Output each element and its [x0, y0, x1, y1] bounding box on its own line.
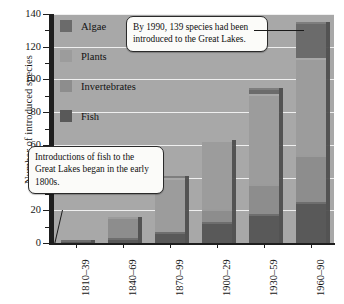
callout-fish-1800s: Introductions of fish to the Great Lakes…	[28, 146, 164, 194]
x-axis-tick	[123, 243, 124, 248]
x-axis-tick	[76, 243, 77, 248]
bar-segment-invertebrates	[202, 209, 232, 222]
bar	[202, 140, 232, 243]
gridline	[53, 14, 334, 15]
segment-highlight	[108, 217, 138, 219]
y-axis: 020406080100120140	[49, 14, 54, 244]
x-axis-label: 1840–69	[127, 259, 138, 296]
y-axis-tick	[45, 194, 49, 195]
x-axis-tick	[217, 243, 218, 248]
x-axis-tick	[311, 243, 312, 248]
y-axis-tick	[45, 227, 49, 228]
bar-segment-fish	[249, 214, 279, 243]
bar-segment-algae	[249, 88, 279, 95]
x-axis-tick	[170, 243, 171, 248]
x-axis	[49, 243, 335, 245]
legend: AlgaePlantsInvertebratesFish	[60, 20, 136, 140]
y-axis-label: 20	[31, 205, 42, 216]
y-axis-tick	[43, 210, 49, 211]
legend-label: Fish	[81, 111, 99, 122]
bar-side-shadow	[326, 22, 330, 243]
callout-species-1990-text: By 1990, 139 species had been introduced…	[133, 22, 248, 44]
x-axis-label: 1960–90	[315, 259, 326, 296]
bar-segment-invertebrates	[108, 217, 138, 238]
callout-leader-line	[254, 30, 304, 31]
legend-item-plants: Plants	[60, 50, 136, 62]
segment-highlight	[296, 155, 326, 157]
segment-highlight	[202, 140, 232, 142]
bar-segment-plants	[296, 58, 326, 155]
y-axis-tick	[45, 129, 49, 130]
legend-item-invertebrates: Invertebrates	[60, 80, 136, 92]
segment-highlight	[296, 22, 326, 24]
chart-figure: Number of introduced species 02040608010…	[0, 0, 344, 304]
segment-highlight	[61, 240, 91, 242]
bar-segment-plants	[202, 140, 232, 209]
y-axis-tick	[45, 30, 49, 31]
bar-segment-fish	[296, 202, 326, 243]
y-axis-label: 140	[25, 9, 41, 20]
bar	[108, 217, 138, 243]
segment-highlight	[202, 222, 232, 224]
y-axis-tick	[45, 96, 49, 97]
y-axis-tick	[45, 63, 49, 64]
legend-swatch	[60, 110, 72, 122]
y-axis-label: 0	[36, 238, 41, 249]
bar-segment-plants	[249, 94, 279, 184]
segment-highlight	[202, 209, 232, 211]
bar-segment-algae	[296, 22, 326, 58]
segment-highlight	[249, 184, 279, 186]
x-axis-label: 1900–29	[221, 259, 232, 296]
segment-highlight	[155, 232, 185, 234]
bar	[296, 22, 326, 243]
segment-highlight	[296, 202, 326, 204]
x-axis-label: 1810–39	[80, 259, 91, 296]
legend-label: Invertebrates	[81, 81, 136, 92]
x-axis-tick	[264, 243, 265, 248]
bar-segment-invertebrates	[249, 184, 279, 213]
y-axis-label: 80	[31, 107, 42, 118]
y-axis-tick	[43, 79, 49, 80]
bar	[249, 88, 279, 243]
legend-item-fish: Fish	[60, 110, 136, 122]
y-axis-label: 100	[25, 74, 41, 85]
segment-highlight	[108, 238, 138, 240]
x-axis-label: 1930–59	[268, 259, 279, 296]
bar-side-shadow	[279, 88, 283, 243]
callout-fish-1800s-text: Introductions of fish to the Great Lakes…	[35, 152, 149, 187]
bar-segment-invertebrates	[296, 155, 326, 202]
bar-segment-fish	[155, 232, 185, 243]
y-axis-tick	[43, 47, 49, 48]
y-axis-tick	[43, 14, 49, 15]
legend-swatch	[60, 50, 72, 62]
legend-item-algae: Algae	[60, 20, 136, 32]
y-axis-tick	[43, 112, 49, 113]
segment-highlight	[249, 214, 279, 216]
segment-highlight	[296, 58, 326, 60]
bar-segment-fish	[202, 222, 232, 243]
x-axis-label: 1870–99	[174, 259, 185, 296]
y-axis-label: 120	[25, 41, 41, 52]
segment-highlight	[249, 94, 279, 96]
callout-species-1990: By 1990, 139 species had been introduced…	[126, 16, 268, 52]
bar-side-shadow	[232, 140, 236, 243]
bar-side-shadow	[185, 176, 189, 243]
legend-label: Plants	[81, 51, 107, 62]
legend-swatch	[60, 20, 72, 32]
gridline	[53, 210, 334, 211]
bar-side-shadow	[138, 217, 142, 243]
legend-label: Algae	[81, 21, 106, 32]
segment-highlight	[249, 88, 279, 90]
legend-swatch	[60, 80, 72, 92]
